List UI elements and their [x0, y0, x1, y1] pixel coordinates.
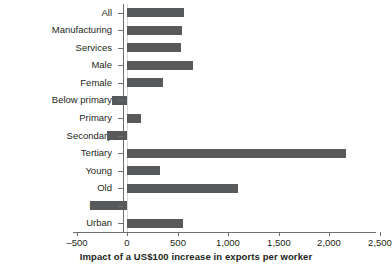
y-axis-label-primary: Primary [79, 113, 112, 123]
bar-all [127, 8, 184, 17]
y-axis-label-secondary: Secondary [67, 131, 112, 141]
y-axis-tick [118, 171, 123, 172]
y-axis-label-all: All [101, 8, 112, 18]
x-axis-tick-label: 2,000 [317, 238, 341, 248]
y-axis-tick [118, 65, 123, 66]
x-axis-tick-label: –500 [66, 238, 87, 248]
y-axis-tick [118, 118, 123, 119]
y-axis-tick [118, 153, 123, 154]
x-axis-tick [127, 232, 128, 236]
bar-old [127, 184, 238, 193]
bar-chart: AllManufacturingServicesMaleFemaleBelow … [0, 0, 392, 264]
y-axis-label-below-primary: Below primary [52, 95, 112, 105]
y-axis-label-old: Old [97, 183, 112, 193]
y-axis-label-male: Male [91, 60, 112, 70]
y-axis-label-female: Female [80, 78, 112, 88]
y-axis-tick [118, 13, 123, 14]
y-axis-tick [118, 206, 123, 207]
x-axis-tick-label: 2,500 [368, 238, 392, 248]
bar-young [127, 166, 160, 175]
y-axis-labels: AllManufacturingServicesMaleFemaleBelow … [0, 0, 120, 232]
bar-services [127, 43, 181, 52]
bar-manufacturing [127, 26, 182, 35]
x-axis-title: Impact of a US$100 increase in exports p… [0, 252, 392, 262]
x-axis-tick-label: 500 [170, 238, 186, 248]
bar-secondary [107, 131, 127, 140]
y-axis-tick [118, 83, 123, 84]
x-axis-tick [77, 232, 78, 236]
x-axis-tick-label: 1,000 [216, 238, 240, 248]
y-axis-tick [118, 48, 123, 49]
y-axis-tick [118, 136, 123, 137]
y-axis-label-manufacturing: Manufacturing [52, 25, 112, 35]
y-axis-tick [118, 30, 123, 31]
y-axis-label-tertiary: Tertiary [81, 148, 112, 158]
x-axis-line [73, 232, 376, 233]
bar-tertiary [127, 149, 346, 158]
y-axis-label-urban: Urban [86, 218, 112, 228]
x-axis-tick [178, 232, 179, 236]
x-axis-tick [380, 232, 381, 236]
plot-area [127, 4, 376, 232]
y-axis-label-services: Services [76, 43, 112, 53]
x-axis-tick-label: 0 [124, 238, 129, 248]
bar-primary [127, 114, 141, 123]
bar-urban [127, 219, 183, 228]
x-axis-tick [279, 232, 280, 236]
y-axis-tick [118, 223, 123, 224]
bar-male [127, 61, 193, 70]
x-axis-tick-label: 1,500 [267, 238, 291, 248]
x-axis-tick [329, 232, 330, 236]
y-axis-tick [118, 100, 123, 101]
y-axis-label-young: Young [85, 166, 112, 176]
x-axis-tick [228, 232, 229, 236]
y-axis-line [123, 4, 124, 232]
y-axis-tick [118, 188, 123, 189]
bar-female [127, 78, 163, 87]
